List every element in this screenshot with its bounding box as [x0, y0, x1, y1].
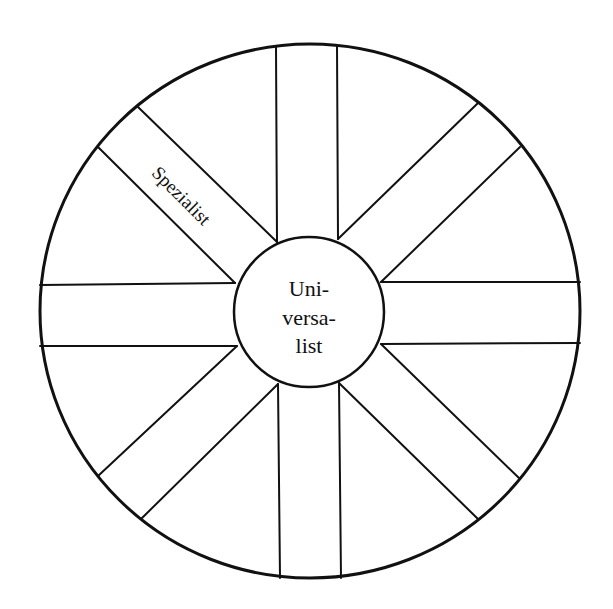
spoke-left [40, 283, 237, 346]
spoke-top [276, 45, 338, 242]
center-label-line-1: Uni- [289, 276, 329, 301]
specialist-universalist-wheel: Spezialist Uni- versa- list [0, 0, 613, 609]
spoke-bottom-left [98, 346, 278, 519]
spoke-bottom-right [339, 344, 520, 519]
center-label-line-2: versa- [282, 305, 336, 330]
spoke-right [381, 282, 580, 344]
center-label-line-3: list [296, 333, 323, 358]
spoke-top-right [338, 103, 520, 282]
spoke-bottom [278, 383, 341, 578]
